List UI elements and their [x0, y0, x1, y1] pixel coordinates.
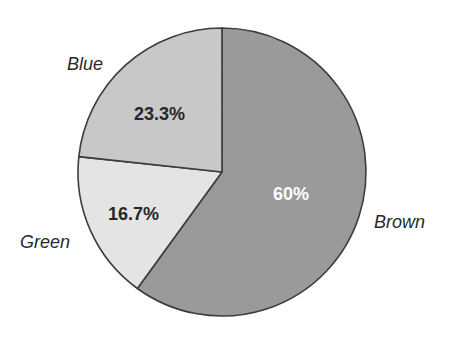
- slice-blue: [79, 28, 222, 172]
- category-label-brown: Brown: [374, 212, 425, 232]
- pie-slices: [78, 28, 366, 316]
- pct-label-blue: 23.3%: [134, 104, 185, 124]
- pct-label-green: 16.7%: [108, 204, 159, 224]
- category-label-blue: Blue: [67, 54, 103, 74]
- category-label-green: Green: [20, 232, 70, 252]
- pct-label-brown: 60%: [273, 184, 309, 204]
- pie-chart: 60% 16.7% 23.3% Brown Green Blue: [0, 0, 458, 340]
